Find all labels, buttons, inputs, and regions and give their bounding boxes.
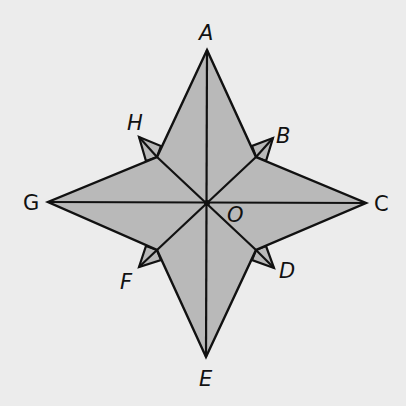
center-point-O bbox=[204, 200, 210, 206]
label-F: F bbox=[120, 270, 133, 294]
label-D: D bbox=[279, 259, 295, 283]
label-H: H bbox=[127, 111, 143, 135]
compass-rose-diagram: A B C D E F G H O bbox=[0, 0, 406, 406]
label-A: A bbox=[197, 21, 213, 45]
label-C: C bbox=[374, 192, 389, 216]
label-E: E bbox=[199, 367, 213, 391]
label-B: B bbox=[276, 124, 290, 148]
label-G: G bbox=[23, 191, 39, 215]
label-O: O bbox=[227, 203, 244, 227]
